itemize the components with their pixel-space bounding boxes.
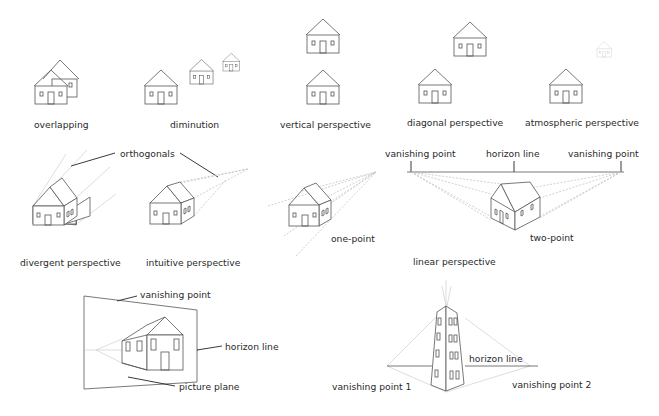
intuitive-illustration: [150, 169, 248, 224]
caption-vertical: vertical perspective: [280, 119, 371, 130]
caption-one-point: one-point: [331, 233, 375, 244]
caption-atmospheric: atmospheric perspective: [525, 117, 639, 128]
callout-orthogonals: orthogonals: [120, 148, 175, 159]
divergent-illustration: [33, 150, 116, 225]
callout-picture-plane: picture plane: [179, 381, 240, 392]
caption-diagonal: diagonal perspective: [407, 117, 504, 128]
caption-intuitive: intuitive perspective: [146, 257, 241, 268]
overlapping-illustration: [34, 60, 79, 104]
three-point-illustration: [387, 280, 538, 392]
caption-linear: linear perspective: [413, 256, 496, 267]
caption-divergent: divergent perspective: [20, 257, 121, 268]
callout-pp-horizon-line: horizon line: [225, 341, 279, 352]
perspective-diagram: overlapping diminution vertical perspect…: [0, 0, 659, 416]
caption-two-point: two-point: [530, 232, 574, 243]
atmospheric-illustration: [549, 42, 612, 103]
diminution-illustration: [144, 53, 240, 104]
caption-overlapping: overlapping: [34, 119, 89, 130]
callout-horizon-line: horizon line: [486, 148, 540, 159]
callout-vanishing-point-right: vanishing point: [568, 148, 639, 159]
caption-diminution: diminution: [170, 119, 219, 130]
vertical-illustration: [306, 19, 340, 104]
callout-vanishing-point-1: vanishing point 1: [332, 381, 411, 392]
callout-tp-horizon-line: horizon line: [469, 353, 523, 364]
picture-plane-illustration: [84, 296, 198, 389]
callout-pp-vanishing-point: vanishing point: [140, 289, 211, 300]
two-point-illustration: vanishing point horizon line vanishing p…: [385, 148, 639, 230]
callout-vanishing-point-2: vanishing point 2: [512, 379, 591, 390]
diagonal-illustration: [418, 22, 487, 103]
callout-vanishing-point-left: vanishing point: [385, 148, 456, 159]
